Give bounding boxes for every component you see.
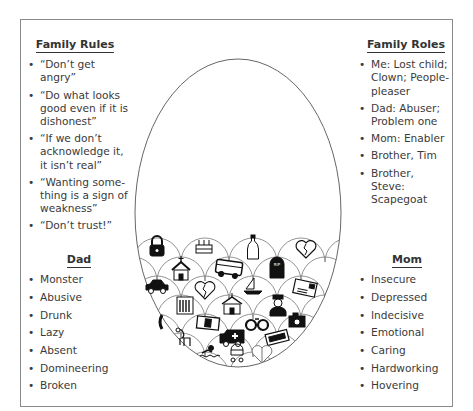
broken-heart-icon: [296, 241, 316, 258]
list-item: “Wanting some-thing is a sign of weaknes…: [27, 176, 131, 216]
family-roles-list: Me: Lost child; Clown; People-pleaser Da…: [358, 58, 450, 206]
list-item: Insecure: [358, 273, 450, 286]
list-item: Hovering: [358, 379, 450, 392]
svg-text:RIP: RIP: [274, 262, 281, 267]
list-item: Brother, Tim: [358, 149, 450, 162]
list-item: Me: Lost child; Clown; People-pleaser: [358, 58, 450, 98]
list-item: Absent: [27, 344, 127, 357]
mom-title: Mom: [358, 253, 450, 266]
egg-outline: [135, 59, 341, 367]
dad-traits-list: Monster Abusive Drunk Lazy Absent Domine…: [27, 273, 127, 392]
list-item: Mom: Enabler: [358, 132, 450, 145]
list-item: Depressed: [358, 291, 450, 304]
letter-icon: [293, 279, 317, 297]
schoolhouse-icon: [222, 293, 242, 314]
broken-heart-icon: [195, 282, 215, 299]
padlock-icon: [150, 236, 164, 256]
dad-title: Dad: [27, 253, 127, 266]
ambulance-icon: [220, 330, 244, 347]
family-roles-title: Family Roles: [358, 38, 450, 51]
sailboat-icon: [244, 278, 262, 294]
family-rules-panel: Family Rules “Don’t get angry” “Do what …: [27, 38, 131, 237]
list-item: Emotional: [358, 326, 450, 339]
church-icon: [172, 256, 190, 280]
handcuffs-icon: [246, 319, 268, 330]
list-item: Hardworking: [358, 362, 450, 375]
list-item: “If we don’t acknowledge it, it isn’t re…: [27, 132, 131, 172]
family-rules-title: Family Rules: [27, 38, 131, 51]
list-item: Abusive: [27, 291, 127, 304]
telephone-icon: [160, 315, 162, 329]
list-item: “Don’t get angry”: [27, 58, 131, 84]
mom-traits-list: Insecure Depressed Indecisive Emotional …: [358, 273, 450, 392]
car-icon: [146, 280, 168, 294]
police-officer-icon: [270, 295, 286, 316]
list-item: “Do what looks good even if it is dishon…: [27, 89, 131, 129]
tickets-icon: [265, 329, 289, 345]
list-item: Broken: [27, 379, 127, 392]
family-rules-list: “Don’t get angry” “Do what looks good ev…: [27, 58, 131, 232]
bus-icon: [215, 259, 243, 279]
camera-icon: [289, 313, 305, 327]
list-item: Dad: Abuser; Problem one: [358, 102, 450, 128]
birthday-cake-icon: [196, 240, 212, 253]
list-item: Indecisive: [358, 309, 450, 322]
money-icon: [196, 316, 219, 330]
list-item: “Don’t trust!”: [27, 219, 131, 232]
list-item: Domineering: [27, 362, 127, 375]
list-item: Drunk: [27, 309, 127, 322]
list-item: Brother, Steve: Scapegoat: [358, 167, 450, 207]
list-item: Caring: [358, 344, 450, 357]
family-roles-panel: Family Roles Me: Lost child; Clown; Peop…: [358, 38, 450, 210]
list-item: Monster: [27, 273, 127, 286]
list-item: Lazy: [27, 326, 127, 339]
office-building-icon: [177, 297, 193, 314]
dad-panel: Dad Monster Abusive Drunk Lazy Absent Do…: [27, 253, 127, 397]
gravestone-icon: RIP: [270, 257, 284, 278]
mom-panel: Mom Insecure Depressed Indecisive Emotio…: [358, 253, 450, 397]
